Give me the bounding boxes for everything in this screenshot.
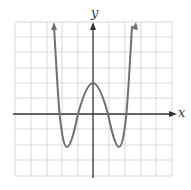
graph	[0, 0, 191, 190]
curve-arrow-left-icon	[51, 22, 57, 30]
axes	[13, 26, 172, 178]
x-axis-label: x	[178, 105, 185, 120]
x-axis-arrow-icon	[169, 111, 177, 117]
curve-arrow-right-icon	[132, 22, 138, 30]
y-axis-label: y	[91, 5, 98, 20]
y-axis-arrow-icon	[90, 22, 96, 30]
